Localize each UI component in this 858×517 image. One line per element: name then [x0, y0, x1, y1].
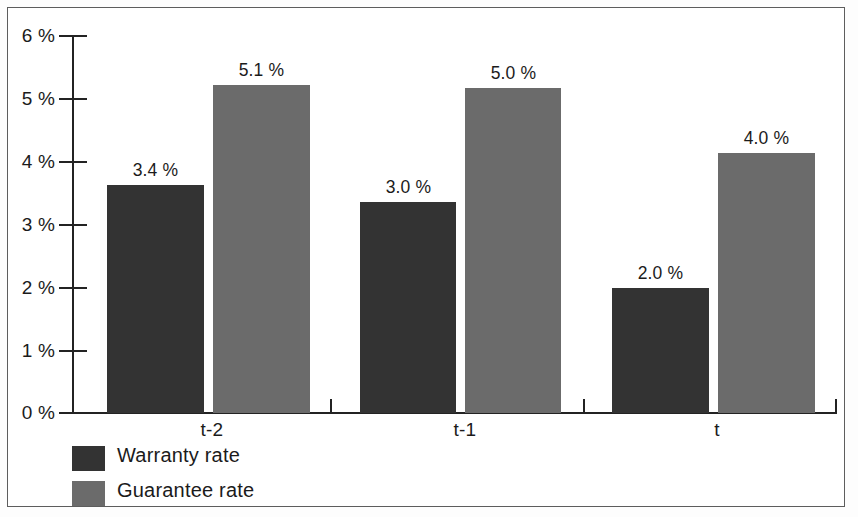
y-axis-label-0: 0 % [0, 402, 55, 424]
bar-chart-plot: 6 % 5 % 4 % 3 % 2 % 1 % 0 % t-2 t-1 t 3.… [0, 0, 858, 517]
x-axis-label-t-minus-2: t-2 [152, 419, 272, 441]
x-tick-separator-1 [330, 399, 332, 413]
figure-canvas: 6 % 5 % 4 % 3 % 2 % 1 % 0 % t-2 t-1 t 3.… [0, 0, 858, 517]
bar-value-label-warranty-t-minus-1: 3.0 % [358, 177, 459, 198]
y-tick-2 [59, 287, 87, 289]
bar-warranty-t-minus-2[interactable] [107, 185, 204, 413]
x-tick-separator-3 [835, 399, 837, 413]
legend-label-warranty-rate: Warranty rate [117, 444, 240, 467]
bar-value-label-guarantee-t-minus-1: 5.0 % [463, 63, 564, 84]
bar-value-label-warranty-t: 2.0 % [610, 263, 711, 284]
x-tick-separator-2 [583, 399, 585, 413]
y-axis-label-2: 2 % [0, 277, 55, 299]
y-tick-4 [59, 161, 87, 163]
legend-label-guarantee-rate: Guarantee rate [117, 479, 254, 502]
y-axis-label-1: 1 % [0, 340, 55, 362]
bar-guarantee-t-minus-1[interactable] [465, 88, 561, 413]
y-axis-label-4: 4 % [0, 151, 55, 173]
y-tick-5 [59, 98, 87, 100]
y-tick-3 [59, 224, 87, 226]
y-tick-6 [59, 35, 87, 37]
legend-swatch-guarantee-rate [72, 481, 105, 506]
y-axis-label-6: 6 % [0, 25, 55, 47]
legend-swatch-warranty-rate [72, 446, 105, 471]
y-axis-label-3: 3 % [0, 214, 55, 236]
y-axis-label-5: 5 % [0, 88, 55, 110]
bar-value-label-warranty-t-minus-2: 3.4 % [105, 160, 206, 181]
y-tick-1 [59, 350, 87, 352]
bar-value-label-guarantee-t-minus-2: 5.1 % [211, 60, 312, 81]
x-axis-label-t: t [657, 419, 777, 441]
bar-value-label-guarantee-t: 4.0 % [716, 128, 817, 149]
bar-guarantee-t-minus-2[interactable] [213, 85, 310, 413]
bar-guarantee-t[interactable] [718, 153, 815, 413]
x-axis-label-t-minus-1: t-1 [405, 419, 525, 441]
bar-warranty-t-minus-1[interactable] [360, 202, 456, 413]
bar-warranty-t[interactable] [612, 288, 709, 413]
